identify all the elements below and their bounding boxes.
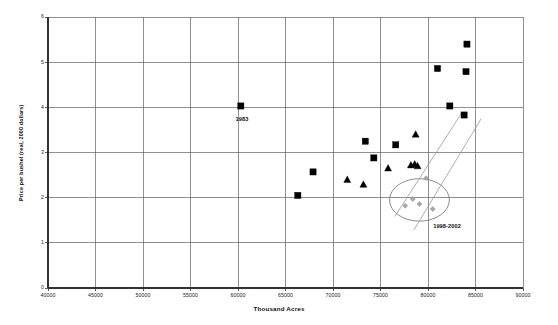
x-tick-label: 80000	[411, 293, 445, 298]
x-tick-label: 85000	[459, 293, 493, 298]
grid-lines	[48, 17, 523, 288]
x-tick-label: 65000	[269, 293, 303, 298]
cluster-label-1998-2002: 1998-2002	[433, 224, 461, 230]
y-tick-label: 5	[26, 60, 44, 65]
y-axis-label: Price per bushel (real, 2000 dollars)	[19, 93, 24, 213]
y-tick-label: 4	[26, 105, 44, 110]
x-tick-label: 55000	[174, 293, 208, 298]
x-tick-label: 60000	[221, 293, 255, 298]
x-tick-label: 70000	[316, 293, 350, 298]
axis-lines	[45, 17, 523, 291]
chart-canvas	[0, 0, 558, 325]
data-markers	[238, 41, 470, 211]
x-tick-label: 50000	[126, 293, 160, 298]
annotation-shapes	[390, 114, 482, 231]
y-tick-label: 6	[26, 14, 44, 19]
x-tick-label: 45000	[79, 293, 113, 298]
x-tick-label: 40000	[31, 293, 65, 298]
scatter-chart-figure: Price per bushel (real, 2000 dollars) Th…	[0, 0, 558, 325]
y-tick-label: 2	[26, 195, 44, 200]
x-tick-label: 75000	[364, 293, 398, 298]
x-tick-label: 90000	[506, 293, 540, 298]
y-tick-label: 3	[26, 150, 44, 155]
y-tick-label: 1	[26, 240, 44, 245]
point-label-1983: 1983	[236, 117, 249, 123]
y-tick-label: 0	[26, 285, 44, 290]
x-axis-label: Thousand Acres	[0, 305, 558, 312]
